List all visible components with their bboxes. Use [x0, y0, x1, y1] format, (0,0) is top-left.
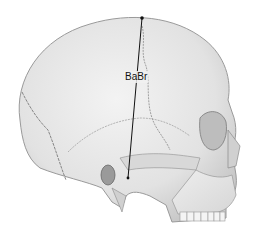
- basion-point: [127, 177, 130, 180]
- external-auditory-meatus: [101, 165, 115, 185]
- zygomatic-arch: [120, 154, 200, 170]
- orbit: [200, 112, 227, 150]
- skull-diagram: BaBr: [0, 0, 259, 234]
- measurement-label: BaBr: [124, 71, 148, 83]
- skull-illustration: [0, 0, 259, 234]
- bregma-point: [140, 16, 144, 20]
- teeth: [180, 212, 225, 221]
